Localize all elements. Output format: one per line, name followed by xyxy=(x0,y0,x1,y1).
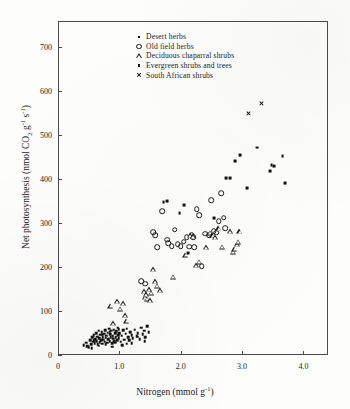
data-point xyxy=(152,233,158,239)
data-point xyxy=(122,329,125,332)
data-point xyxy=(166,200,169,203)
data-point xyxy=(101,333,104,336)
data-point xyxy=(246,111,251,116)
legend-marker-icon xyxy=(132,44,146,50)
data-point xyxy=(196,212,202,218)
data-point xyxy=(190,234,196,239)
data-point xyxy=(108,330,111,333)
data-point xyxy=(178,212,181,215)
legend-item-label: Old field herbs xyxy=(146,42,194,51)
data-point xyxy=(108,303,114,308)
data-point xyxy=(93,339,96,342)
x-axis-tick-label: 2.0 xyxy=(176,362,186,371)
data-point xyxy=(155,245,161,251)
legend-item: Evergreen shrubs and trees xyxy=(132,61,234,71)
data-point xyxy=(120,301,126,306)
y-axis-tick-label: 500 xyxy=(26,131,52,140)
legend-item-label: Deciduous chaparral shrubs xyxy=(146,51,234,60)
data-point xyxy=(90,347,93,350)
data-point xyxy=(125,327,128,330)
x-axis-title-text: Nitrogen (mmol g xyxy=(136,387,205,397)
data-point xyxy=(123,313,129,318)
data-point xyxy=(147,298,153,303)
data-point xyxy=(117,328,120,331)
legend-marker-icon xyxy=(132,64,146,67)
data-point xyxy=(133,328,136,331)
data-point xyxy=(187,252,190,255)
y-axis-title-part-a: Net photosynthesis (nmol CO xyxy=(21,136,31,249)
data-point xyxy=(218,190,224,196)
x-axis-title: Nitrogen (mmol g-1) xyxy=(0,385,350,397)
y-axis-title-sup-1: -1 xyxy=(19,120,26,126)
y-axis-tick-label: 400 xyxy=(26,175,52,184)
data-point xyxy=(183,203,186,206)
legend-item: Desert herbs xyxy=(132,32,234,42)
data-point xyxy=(121,334,124,337)
legend-marker-icon xyxy=(132,36,146,39)
data-point xyxy=(172,227,178,233)
data-point xyxy=(204,245,210,250)
data-point xyxy=(117,337,120,340)
data-point xyxy=(196,259,202,264)
data-point xyxy=(216,226,222,231)
data-point xyxy=(85,341,88,344)
y-axis-title-tail: ) xyxy=(21,105,31,108)
data-point xyxy=(194,206,200,212)
data-point xyxy=(97,344,100,347)
x-axis-tick-label: 0 xyxy=(56,362,60,371)
data-point xyxy=(82,344,85,347)
data-point xyxy=(228,177,231,180)
data-point xyxy=(209,198,215,204)
legend-marker-icon xyxy=(132,53,146,58)
data-point xyxy=(143,340,146,343)
data-point xyxy=(268,170,271,173)
data-point xyxy=(233,159,236,162)
y-axis-tick-label: 100 xyxy=(26,307,52,316)
data-point xyxy=(127,336,130,339)
data-point xyxy=(124,318,130,323)
data-point xyxy=(259,101,264,106)
data-point xyxy=(146,325,149,328)
legend-item: South African shrubs xyxy=(132,70,234,80)
scatter-plot-figure: Net photosynthesis (nmol CO2 g-1 s-1) Ni… xyxy=(0,0,350,409)
data-point xyxy=(256,146,259,149)
data-point xyxy=(123,338,126,341)
x-axis-title-tail: ) xyxy=(210,387,213,397)
data-point xyxy=(235,239,241,244)
data-point xyxy=(114,341,117,344)
data-point xyxy=(221,215,227,221)
data-point xyxy=(118,306,124,311)
data-point xyxy=(143,330,146,333)
data-point xyxy=(130,342,133,345)
legend: Desert herbsOld field herbsDeciduous cha… xyxy=(132,32,234,80)
y-axis-tick xyxy=(58,355,62,356)
legend-marker-icon xyxy=(132,73,146,78)
data-point xyxy=(162,201,165,204)
data-point xyxy=(119,341,122,344)
data-point xyxy=(169,243,175,249)
data-point xyxy=(273,165,276,168)
y-axis-tick-label: 0 xyxy=(26,351,52,360)
y-axis-tick-label: 600 xyxy=(26,87,52,96)
y-axis-title-part-c: s xyxy=(21,114,31,120)
data-point xyxy=(160,208,166,214)
data-point xyxy=(284,181,287,184)
data-point xyxy=(227,229,233,234)
x-axis-tick-label: 1.0 xyxy=(114,362,124,371)
y-axis-tick-label: 300 xyxy=(26,219,52,228)
data-point xyxy=(148,331,151,334)
data-point xyxy=(111,345,114,348)
legend-item: Old field herbs xyxy=(132,42,234,52)
data-point xyxy=(212,235,218,240)
data-point xyxy=(144,336,147,339)
data-point xyxy=(132,337,135,340)
y-axis-title-sup-2: -1 xyxy=(19,108,26,114)
x-axis-tick-label: 3.0 xyxy=(237,362,247,371)
y-axis-tick-label: 700 xyxy=(26,43,52,52)
data-point xyxy=(191,245,197,251)
legend-item-label: Evergreen shrubs and trees xyxy=(146,61,232,70)
data-point xyxy=(157,287,163,292)
data-point xyxy=(170,274,176,279)
data-point xyxy=(238,154,241,157)
legend-item-label: South African shrubs xyxy=(146,71,213,80)
